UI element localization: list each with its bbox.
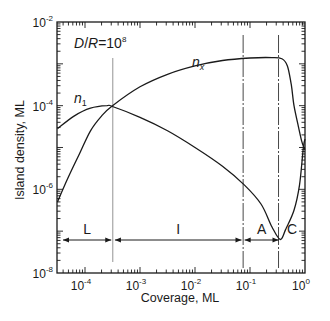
y-tick-label: 10-6 xyxy=(33,181,54,197)
y-axis-title: Island density, ML xyxy=(13,100,27,200)
dr-annotation: D/R=108 xyxy=(74,35,127,51)
region-arrows: LIAC xyxy=(63,221,297,243)
y-tick-label: 10-8 xyxy=(33,265,54,281)
nx-curve xyxy=(58,58,306,202)
x-tick-label: 10-4 xyxy=(71,277,92,293)
y-tick-labels: 10-210-410-610-8 xyxy=(33,14,54,281)
y-tick-label: 10-2 xyxy=(33,14,54,30)
x-tick-label: 10-1 xyxy=(236,277,257,293)
region-label-I: I xyxy=(176,221,180,237)
island-density-chart: LIAC 10-410-310-210-1100 10-210-410-610-… xyxy=(0,0,330,321)
region-label-A: A xyxy=(257,221,267,237)
n1-curve-label: n1 xyxy=(74,90,87,108)
nx-curve-label: nx xyxy=(192,54,205,72)
x-axis-title: Coverage, ML xyxy=(141,291,220,305)
y-tick-label: 10-4 xyxy=(33,98,54,114)
plot-frame xyxy=(57,22,305,273)
region-label-L: L xyxy=(83,221,91,237)
region-label-C: C xyxy=(287,221,297,237)
x-tick-label: 100 xyxy=(292,277,310,293)
data-curves xyxy=(58,58,306,240)
axis-ticks xyxy=(57,22,305,273)
